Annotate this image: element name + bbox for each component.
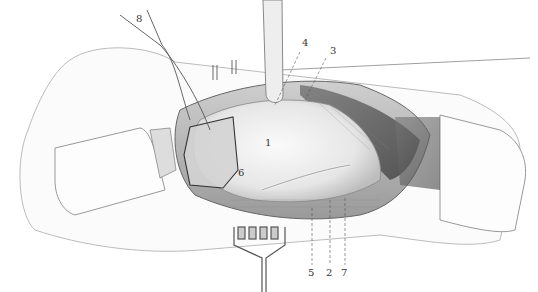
label-2: 2 [326,268,332,278]
rake-retractor [234,227,285,292]
label-8: 8 [136,14,142,24]
operative-field [175,81,430,219]
label-1: 1 [265,138,271,148]
label-3: 3 [330,46,336,56]
label-6: 6 [238,168,244,178]
top-retractor [263,0,283,103]
label-4: 4 [302,38,308,48]
label-5: 5 [308,268,314,278]
label-7: 7 [341,268,347,278]
